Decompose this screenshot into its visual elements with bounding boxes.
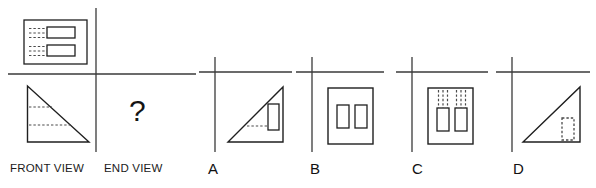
option-d-axes xyxy=(496,57,590,152)
front-view-drawing xyxy=(28,86,90,142)
option-c-drawing xyxy=(428,88,473,144)
option-c-axes xyxy=(396,57,488,152)
option-b-drawing xyxy=(328,88,373,144)
projection-question-figure: ? FRONT VIEW END VIEW A B C D xyxy=(0,0,596,188)
plan-view-drawing xyxy=(24,20,87,64)
option-label-d[interactable]: D xyxy=(513,160,524,177)
option-label-a[interactable]: A xyxy=(208,160,218,177)
unknown-view-question-mark: ? xyxy=(129,96,146,126)
end-view-caption: END VIEW xyxy=(104,162,162,174)
front-view-caption: FRONT VIEW xyxy=(10,162,84,174)
option-d-drawing xyxy=(523,87,580,142)
given-panel-axes xyxy=(8,8,196,152)
option-label-c[interactable]: C xyxy=(412,160,423,177)
technical-drawing-canvas xyxy=(0,0,596,188)
option-a-drawing xyxy=(228,87,283,142)
option-label-b[interactable]: B xyxy=(310,160,320,177)
